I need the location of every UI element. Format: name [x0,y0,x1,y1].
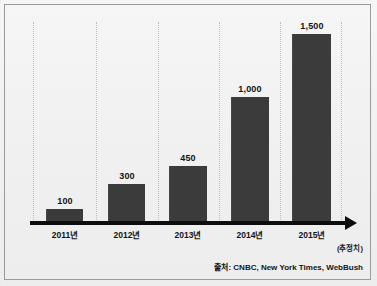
x-label-2012: 2012년 [106,228,148,240]
bar-2012[interactable] [108,184,145,222]
x-label-2015: 2015년 [290,228,334,240]
gridline [341,22,342,224]
gridline [158,22,159,224]
x-label-2011: 2011년 [44,228,86,240]
gridline [33,22,34,224]
x-label-2014: 2014년 [229,228,271,240]
gridline [219,22,220,224]
chart-figure: 100 300 450 1,000 1,500 2011년 2012년 2013… [0,0,377,286]
x-label-2013: 2013년 [167,228,209,240]
bar-value-2011: 100 [44,196,86,206]
bar-2015[interactable] [292,34,331,222]
bar-value-2015: 1,500 [290,21,334,31]
bar-value-2012: 300 [106,171,148,181]
bar-value-2014: 1,000 [229,84,271,94]
x-axis-arrow-icon [345,216,357,230]
gridline [96,22,97,224]
bar-2014[interactable] [231,97,269,222]
estimate-note: (추정치) [337,242,363,253]
bar-2013[interactable] [169,166,207,222]
source-note: 출처: CNBC, New York Times, WebBush [214,261,363,272]
gridline [280,22,281,224]
x-axis-line [30,221,348,225]
plot-area: 100 300 450 1,000 1,500 2011년 2012년 2013… [0,0,377,286]
bar-value-2013: 450 [167,153,209,163]
